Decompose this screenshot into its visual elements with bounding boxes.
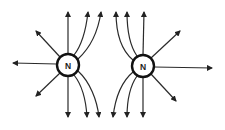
field-line-arrow-icon [113, 72, 133, 117]
field-line-arrow-icon [36, 31, 60, 57]
field-line-arrow-icon [36, 73, 60, 96]
left-north-pole: N [57, 54, 79, 76]
right-north-pole: N [132, 55, 154, 77]
pole-label: N [65, 61, 71, 71]
field-line-arrow-icon [127, 76, 137, 117]
field-line-arrow-icon [78, 12, 101, 59]
pole-label: N [140, 62, 146, 72]
field-line-arrow-icon [151, 74, 176, 101]
field-line-arrow-icon [151, 31, 180, 58]
field-line-arrow-icon [74, 12, 88, 55]
field-line-arrow-icon [74, 75, 87, 117]
field-line-arrow-icon [78, 71, 99, 117]
field-line-arrow-icon [154, 67, 212, 68]
field-line-arrow-icon [116, 12, 133, 60]
field-line-arrow-icon [127, 12, 137, 56]
like-poles-field-diagram: N N [0, 0, 225, 130]
right-pole-field-lines [113, 12, 212, 117]
field-line-arrow-icon [13, 63, 57, 64]
field-line-arrow-icon [143, 12, 144, 55]
